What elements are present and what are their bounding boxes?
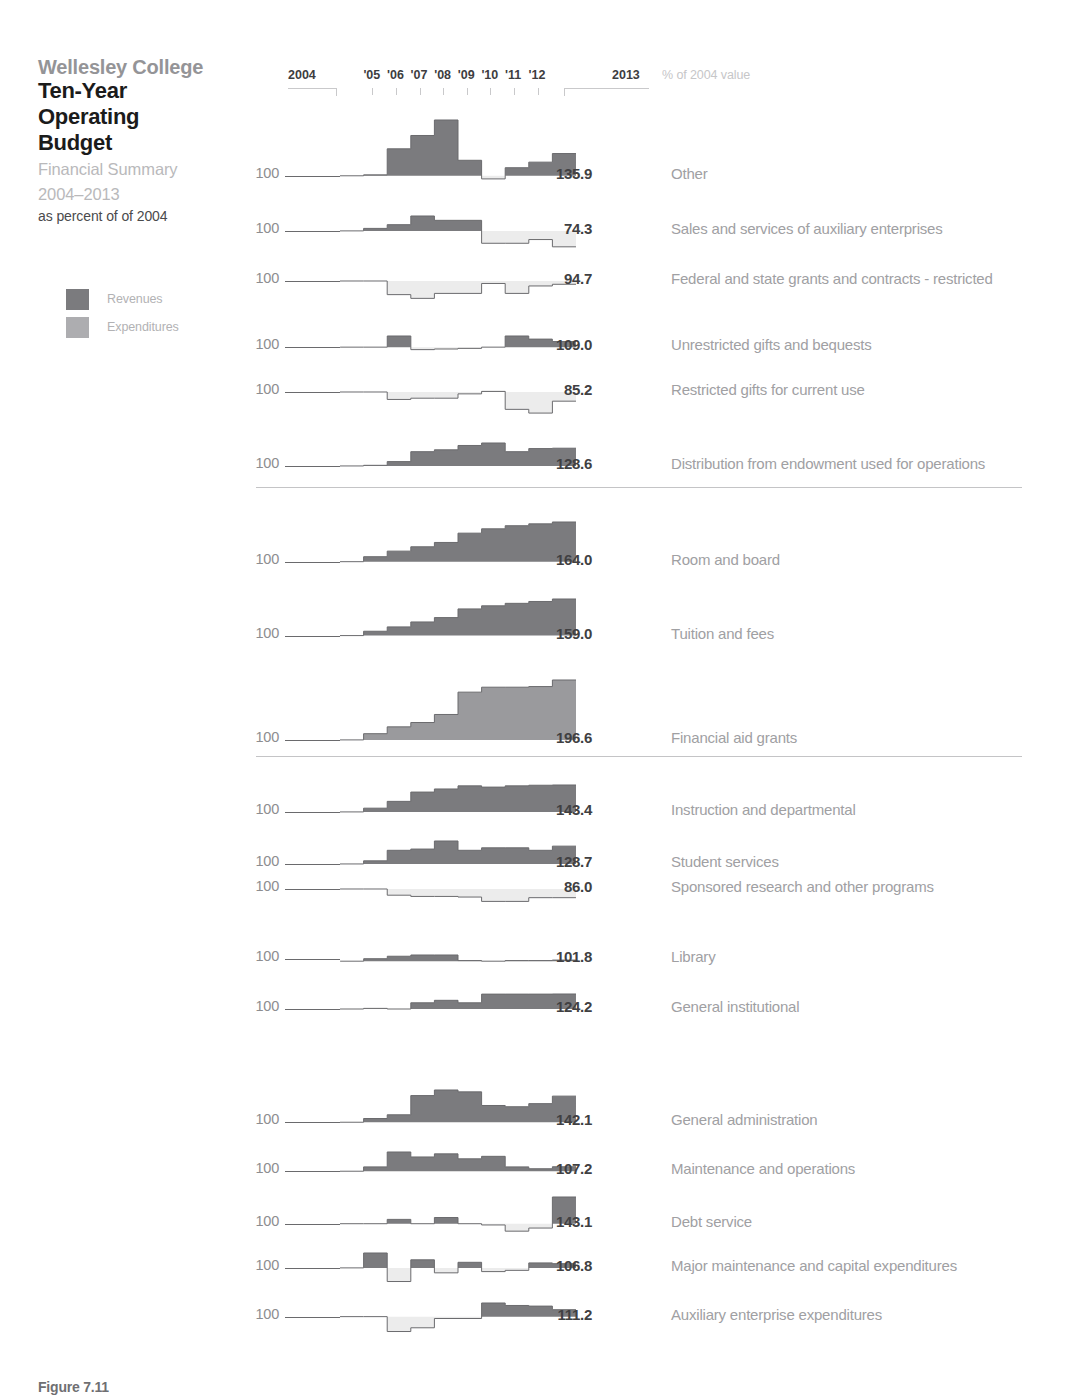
baseline-label-100: 100 bbox=[239, 455, 279, 471]
series-value: 196.6 bbox=[522, 729, 592, 746]
axis-label-2013: 2013 bbox=[612, 68, 640, 82]
axis-label-10: '10 bbox=[481, 68, 498, 82]
baseline-leader bbox=[285, 959, 340, 960]
baseline-leader bbox=[285, 636, 340, 637]
baseline-label-100: 100 bbox=[239, 165, 279, 181]
baseline-leader bbox=[285, 812, 340, 813]
axis-tick-10 bbox=[490, 88, 491, 95]
baseline-leader bbox=[285, 176, 340, 177]
legend-swatch-revenues bbox=[66, 289, 89, 310]
group-separator-2 bbox=[256, 756, 1022, 757]
baseline-label-100: 100 bbox=[239, 220, 279, 236]
axis-bracket-right bbox=[564, 88, 649, 96]
series-value: 124.2 bbox=[522, 998, 592, 1015]
axis-tick-11 bbox=[514, 88, 515, 95]
baseline-leader bbox=[285, 466, 340, 467]
baseline-label-100: 100 bbox=[239, 801, 279, 817]
series-label: Major maintenance and capital expenditur… bbox=[671, 1257, 957, 1274]
series-label: Distribution from endowment used for ope… bbox=[671, 455, 985, 472]
axis-label-09: '09 bbox=[458, 68, 475, 82]
baseline-leader bbox=[285, 1122, 340, 1123]
series-value: 143.1 bbox=[522, 1213, 592, 1230]
series-label: Room and board bbox=[671, 551, 780, 568]
series-value: 109.0 bbox=[522, 336, 592, 353]
baseline-leader bbox=[285, 1224, 340, 1225]
series-label: General institutional bbox=[671, 998, 799, 1015]
series-label: Student services bbox=[671, 853, 779, 870]
series-label: Restricted gifts for current use bbox=[671, 381, 865, 398]
subtitle-line-2: 2004–2013 bbox=[38, 185, 268, 204]
series-value: 135.9 bbox=[522, 165, 592, 182]
axis-label-07: '07 bbox=[411, 68, 428, 82]
baseline-leader bbox=[285, 392, 340, 393]
baseline-label-100: 100 bbox=[239, 336, 279, 352]
series-value: 142.1 bbox=[522, 1111, 592, 1128]
axis-label-08: '08 bbox=[434, 68, 451, 82]
series-label: Auxiliary enterprise expenditures bbox=[671, 1306, 882, 1323]
series-value: 159.0 bbox=[522, 625, 592, 642]
legend-label: Expenditures bbox=[107, 320, 179, 334]
axis-bracket-left bbox=[288, 88, 337, 96]
baseline-leader bbox=[285, 231, 340, 232]
series-label: Maintenance and operations bbox=[671, 1160, 855, 1177]
group-separator-1 bbox=[256, 487, 1022, 488]
axis-tick-07 bbox=[420, 88, 421, 95]
series-label: Sponsored research and other programs bbox=[671, 878, 934, 895]
axis-tick-06 bbox=[396, 88, 397, 95]
figure-caption: Figure 7.11 bbox=[38, 1379, 109, 1395]
series-value: 106.8 bbox=[522, 1257, 592, 1274]
axis-tick-12 bbox=[538, 88, 539, 95]
baseline-label-100: 100 bbox=[239, 1257, 279, 1273]
legend-swatch-expenditures bbox=[66, 317, 89, 338]
legend-label: Revenues bbox=[107, 292, 163, 306]
baseline-label-100: 100 bbox=[239, 1306, 279, 1322]
baseline-label-100: 100 bbox=[239, 381, 279, 397]
series-value: 111.2 bbox=[522, 1306, 592, 1323]
axis-tick-05 bbox=[372, 88, 373, 95]
baseline-label-100: 100 bbox=[239, 729, 279, 745]
baseline-label-100: 100 bbox=[239, 1160, 279, 1176]
baseline-label-100: 100 bbox=[239, 853, 279, 869]
baseline-leader bbox=[285, 1171, 340, 1172]
series-label: Library bbox=[671, 948, 715, 965]
axis-label-06: '06 bbox=[387, 68, 404, 82]
axis-tick-08 bbox=[443, 88, 444, 95]
baseline-leader bbox=[285, 347, 340, 348]
baseline-leader bbox=[285, 864, 340, 865]
axis-label-05: '05 bbox=[363, 68, 380, 82]
series-value: 164.0 bbox=[522, 551, 592, 568]
series-value: 74.3 bbox=[522, 220, 592, 237]
series-value: 107.2 bbox=[522, 1160, 592, 1177]
chart-legend: RevenuesExpenditures bbox=[66, 285, 179, 341]
series-value: 128.6 bbox=[522, 455, 592, 472]
baseline-label-100: 100 bbox=[239, 551, 279, 567]
series-label: Sales and services of auxiliary enterpri… bbox=[671, 220, 943, 237]
year-axis: 2004'05'06'07'08'09'10'11'122013% of 200… bbox=[0, 0, 1075, 100]
baseline-label-100: 100 bbox=[239, 625, 279, 641]
baseline-label-100: 100 bbox=[239, 948, 279, 964]
series-value: 101.8 bbox=[522, 948, 592, 965]
page-title-line-3: Budget bbox=[38, 131, 268, 156]
series-value: 85.2 bbox=[522, 381, 592, 398]
series-value: 86.0 bbox=[522, 878, 592, 895]
series-value: 128.7 bbox=[522, 853, 592, 870]
baseline-leader bbox=[285, 281, 340, 282]
baseline-leader bbox=[285, 1268, 340, 1269]
axis-label-2004: 2004 bbox=[288, 68, 316, 82]
axis-note: % of 2004 value bbox=[662, 68, 750, 82]
baseline-leader bbox=[285, 889, 340, 890]
axis-label-11: '11 bbox=[505, 68, 521, 82]
series-label: Instruction and departmental bbox=[671, 801, 856, 818]
series-label: General administration bbox=[671, 1111, 818, 1128]
axis-tick-09 bbox=[467, 88, 468, 95]
series-label: Financial aid grants bbox=[671, 729, 797, 746]
baseline-leader bbox=[285, 1009, 340, 1010]
legend-item-expenditures: Expenditures bbox=[66, 313, 179, 341]
baseline-label-100: 100 bbox=[239, 878, 279, 894]
series-label: Debt service bbox=[671, 1213, 752, 1230]
series-label: Tuition and fees bbox=[671, 625, 774, 642]
baseline-leader bbox=[285, 562, 340, 563]
baseline-leader bbox=[285, 1317, 340, 1318]
figure-number: Figure 7.11 bbox=[38, 1379, 109, 1395]
series-label: Federal and state grants and contracts -… bbox=[671, 270, 993, 287]
